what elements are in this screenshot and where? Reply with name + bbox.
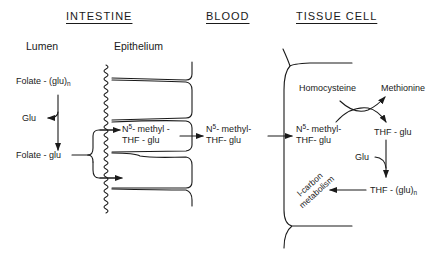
- label-blood-thf-glu: THF- glu: [206, 136, 241, 145]
- header-intestine: INTESTINE: [66, 11, 132, 22]
- header-blood: BLOOD: [206, 11, 250, 22]
- label-methionine: Methionine: [381, 84, 425, 93]
- label-blood-n5-methyl: N5- methyl-: [206, 124, 251, 134]
- label-epithelium-thf-glu: THF - glu: [122, 136, 160, 145]
- folate-absorption-diagram: INTESTINE BLOOD TISSUE CELL Lumen Epithe…: [0, 0, 444, 259]
- label-text: Folate - (glu): [16, 76, 67, 86]
- label-folate-glu: Folate - glu: [16, 151, 61, 160]
- bracket-lower-join: [88, 155, 93, 162]
- label-tissue-thf-glu: THF- glu: [296, 136, 331, 145]
- label-tissue-n5-methyl: N5- methyl-: [296, 124, 341, 134]
- subheader-lumen: Lumen: [26, 41, 58, 52]
- tissue-cell-membrane: [283, 49, 352, 248]
- epithelium-cell-1: [112, 80, 192, 120]
- subheader-epithelium: Epithelium: [114, 41, 163, 52]
- subscript-n: n: [67, 80, 71, 87]
- label-epithelium-n5-methyl: N5- methyl -: [122, 124, 170, 134]
- label-text: THF - (glu): [370, 185, 414, 195]
- arrow-homocysteine-to-methionine: [340, 97, 385, 111]
- label-glu-lumen: Glu: [22, 114, 36, 123]
- header-tissue-cell: TISSUE CELL: [296, 11, 377, 22]
- label-methyl: - methyl -: [132, 124, 170, 134]
- bracket-uptake: [88, 130, 120, 178]
- epithelium-cell-3: [112, 153, 192, 188]
- epithelium-cell-top: [112, 62, 192, 80]
- label-thf-polyglutamate: THF - (glu)n: [370, 186, 417, 197]
- arrow-n5methyl-to-thf: [336, 108, 386, 122]
- label-folate-polyglutamate: Folate - (glu)n: [16, 77, 71, 88]
- label-homocysteine: Homocysteine: [299, 84, 356, 93]
- arrow-glu-addition: [375, 157, 386, 168]
- arrow-glu-release: [48, 112, 58, 118]
- brush-border-microvilli: [104, 65, 108, 213]
- label-methyl: - methyl-: [216, 124, 251, 134]
- label-methyl: - methyl-: [306, 124, 341, 134]
- label-thf-glu-tissue: THF - glu: [374, 128, 412, 137]
- subscript-n: n: [414, 189, 418, 196]
- label-glu-tissue: Glu: [355, 153, 369, 162]
- epithelium-cell-4: [112, 189, 192, 206]
